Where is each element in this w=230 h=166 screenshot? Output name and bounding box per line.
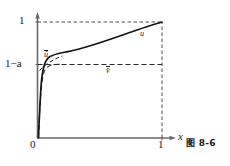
curve-label-u: u <box>140 30 144 38</box>
origin-label: 0 <box>30 139 36 150</box>
x-axis-tick-label-one: 1 <box>158 139 164 150</box>
curve-u <box>38 22 162 138</box>
curve-label-u-bar: ū <box>44 50 48 59</box>
curve-label-v-bar: v̄ <box>106 66 110 75</box>
x-axis-name-label: x <box>178 131 183 142</box>
y-axis-tick-label-one: 1 <box>19 15 25 26</box>
y-axis-arrowhead <box>35 12 40 19</box>
figure-container: 1 1−a 0 1 x ū v̄ u 图 8-6 <box>0 0 230 166</box>
y-axis-tick-label-one-minus-a: 1−a <box>5 58 22 69</box>
curve-label-v-bar-text: v̄ <box>106 66 110 75</box>
figure-caption: 图 8-6 <box>186 136 216 149</box>
curve-label-u-bar-text: ū <box>44 50 48 59</box>
x-axis-arrowhead <box>170 136 177 141</box>
